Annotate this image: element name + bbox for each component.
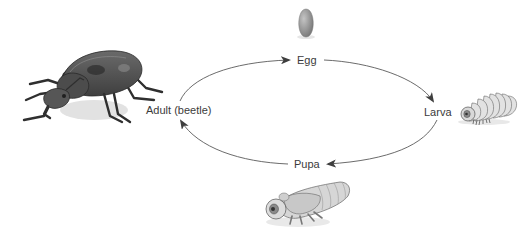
- stage-label-adult: Adult (beetle): [146, 104, 211, 116]
- arrow-adult-to-egg: [180, 60, 289, 101]
- arrow-pupa-to-adult: [181, 121, 288, 164]
- beetle-icon: [14, 44, 174, 134]
- stage-label-larva: Larva: [424, 106, 452, 118]
- stage-label-egg: Egg: [297, 54, 317, 66]
- arrow-egg-to-larva: [324, 60, 433, 101]
- stage-label-pupa: Pupa: [294, 158, 320, 170]
- larva-icon: [458, 86, 524, 128]
- life-cycle-diagram: Egg Larva Pupa Adult (beetle): [0, 0, 531, 236]
- egg-icon: [296, 4, 326, 42]
- arrow-larva-to-pupa: [328, 120, 437, 164]
- pupa-icon: [262, 178, 354, 230]
